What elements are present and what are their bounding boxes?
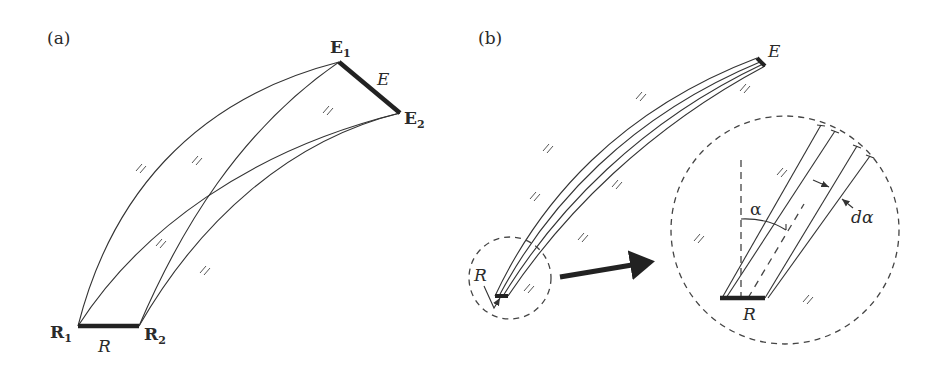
emitter-segment-e <box>339 62 400 113</box>
strip-curve-2 <box>499 62 760 296</box>
magnify-arrow <box>560 262 650 277</box>
receiver-label-r: R <box>473 265 487 285</box>
tick <box>817 125 825 126</box>
curve-r1-e2 <box>78 113 400 326</box>
zoom-receiver-label: R <box>742 304 756 324</box>
dalpha-arrow-1 <box>813 180 829 187</box>
strip-curve-4 <box>508 66 765 296</box>
tick <box>831 130 839 133</box>
point-r2-label: R2 <box>144 324 166 347</box>
strip-curve-3 <box>503 64 763 296</box>
panel-b-label: (b) <box>478 28 502 48</box>
alpha-label: α <box>750 199 762 219</box>
emitter-label-e: E <box>767 41 781 61</box>
hatch-marks-a <box>133 106 333 275</box>
zoom-strip-line-1 <box>722 125 821 298</box>
curve-r2-e2 <box>139 113 400 326</box>
curve-r1-e1 <box>78 62 339 326</box>
segment-r-label: R <box>97 336 111 356</box>
point-e1-label: E1 <box>330 37 351 60</box>
zoom-strip-line-4 <box>768 156 870 298</box>
segment-e-label: E <box>376 69 390 89</box>
figure-canvas: (a) R1 R2 E1 E2 R E (b) <box>0 0 945 368</box>
tick <box>866 155 874 158</box>
tick <box>853 145 861 148</box>
panel-a-label: (a) <box>47 28 70 48</box>
point-r1-label: R1 <box>50 322 72 345</box>
panel-a: (a) R1 R2 E1 E2 R E <box>47 28 425 356</box>
point-e2-label: E2 <box>404 108 425 131</box>
zoom-strip-line-3 <box>765 146 857 298</box>
dalpha-label: dα <box>851 207 874 227</box>
panel-b: (b) E R R <box>469 28 899 344</box>
emitter-element-e <box>757 58 765 66</box>
